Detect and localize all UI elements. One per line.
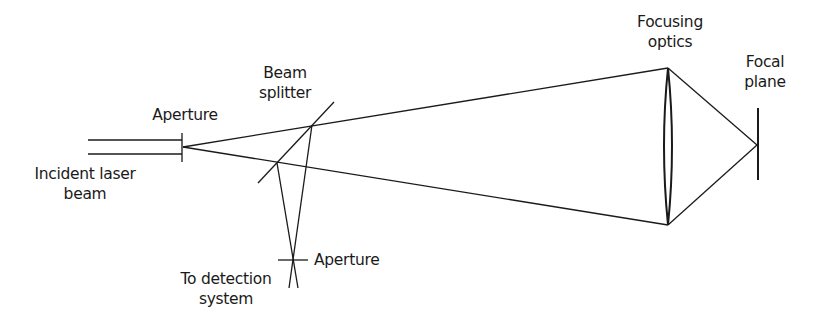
incident-laser-beam (88, 140, 182, 154)
label-detection-system-line2: system (166, 289, 286, 309)
label-incident-beam: Incident laser beam (10, 164, 160, 204)
label-detection-system: To detection system (166, 269, 286, 309)
label-beam-splitter-line1: Beam (245, 63, 325, 83)
detection-rays (277, 125, 312, 288)
label-focusing-optics-line1: Focusing (630, 12, 710, 32)
label-beam-splitter: Beam splitter (245, 63, 325, 103)
label-incident-beam-line2: beam (10, 184, 160, 204)
beam-splitter (258, 102, 334, 183)
label-input-aperture: Aperture (145, 105, 225, 125)
label-focusing-optics: Focusing optics (630, 12, 710, 52)
label-beam-splitter-line2: splitter (245, 83, 325, 103)
label-focal-plane-line2: plane (735, 72, 795, 92)
label-incident-beam-line1: Incident laser (10, 164, 160, 184)
label-focal-plane: Focal plane (735, 52, 795, 92)
label-focusing-optics-line2: optics (630, 32, 710, 52)
label-detection-aperture: Aperture (314, 250, 394, 270)
label-focal-plane-line1: Focal (735, 52, 795, 72)
label-detection-system-line1: To detection (166, 269, 286, 289)
focusing-lens (664, 68, 672, 225)
